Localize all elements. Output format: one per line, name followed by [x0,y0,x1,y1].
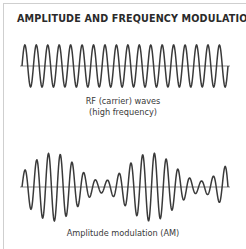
am-wave-plot [0,130,246,240]
carrier-caption-line2: (high frequency) [0,107,246,118]
carrier-caption-line1: RF (carrier) waves [0,96,246,107]
carrier-caption: RF (carrier) waves (high frequency) [0,96,246,118]
am-caption: Amplitude modulation (AM) [0,228,246,239]
